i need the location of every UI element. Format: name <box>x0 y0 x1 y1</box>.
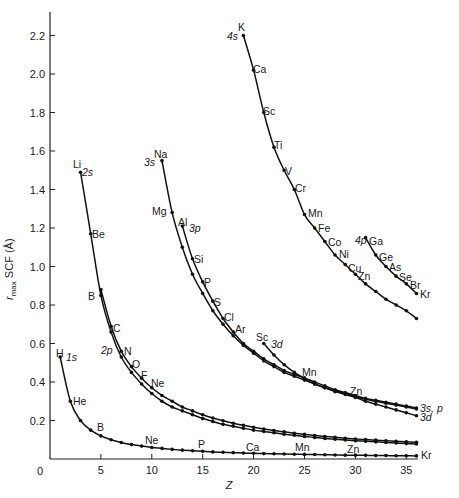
series-4s <box>242 34 419 321</box>
data-point <box>119 355 123 359</box>
label-Sc-3d: Sc <box>256 331 268 343</box>
label-3p: 3p <box>189 222 201 234</box>
data-point <box>394 274 398 278</box>
data-point <box>181 448 185 452</box>
label-Na: Na <box>154 148 168 160</box>
curve-4s <box>243 36 416 319</box>
data-point <box>191 272 195 276</box>
data-point <box>282 363 286 367</box>
data-point <box>333 435 337 439</box>
data-point <box>211 420 215 424</box>
data-point <box>191 449 195 453</box>
data-point <box>364 438 368 442</box>
x-tick-label: 35 <box>400 464 412 476</box>
curve-2s <box>81 172 417 444</box>
x-tick-label: 30 <box>349 464 361 476</box>
data-point <box>170 211 174 215</box>
data-point <box>313 226 317 230</box>
label-B-1s: B <box>97 421 104 433</box>
data-point <box>303 453 307 457</box>
label-He: He <box>73 395 87 407</box>
label-1s: 1s <box>66 351 78 363</box>
data-point <box>394 439 398 443</box>
data-point <box>405 309 409 313</box>
x-tick-label: 5 <box>98 464 104 476</box>
y-tick-label: 0.4 <box>30 376 45 388</box>
label-3s: 3s <box>144 156 156 168</box>
data-point <box>384 265 388 269</box>
data-point <box>323 240 327 244</box>
x-tick-label: 25 <box>298 464 310 476</box>
y-tick-label: 1.0 <box>30 261 45 273</box>
data-point <box>384 400 388 404</box>
data-point <box>242 424 246 428</box>
label-P-1s: P <box>198 438 205 450</box>
data-point <box>181 405 185 409</box>
y-title-rest: SCF (Å) <box>3 238 15 281</box>
data-point <box>303 433 307 437</box>
data-point <box>374 454 378 458</box>
data-point <box>343 393 347 397</box>
axes: 0.20.40.60.81.01.21.41.61.82.02.2 510152… <box>3 12 418 491</box>
data-point <box>170 405 174 409</box>
label-Cl: Cl <box>224 311 234 323</box>
label-Ga: Ga <box>369 235 383 247</box>
label-Kr-1s: Kr <box>421 449 432 461</box>
label-K: K <box>238 21 245 33</box>
label-Al: Al <box>178 216 187 228</box>
y-ticks: 0.20.40.60.81.01.21.41.61.82.02.2 <box>30 30 55 427</box>
label-Cr: Cr <box>295 182 307 194</box>
y-tick-label: 0.8 <box>30 299 45 311</box>
data-point <box>323 386 327 390</box>
data-point <box>415 292 419 296</box>
series-2s <box>79 170 419 445</box>
label-F: F <box>141 369 147 381</box>
data-point <box>99 288 103 292</box>
label-4s: 4s <box>227 30 239 42</box>
label-Mn-3d: Mn <box>302 366 317 378</box>
data-point <box>201 292 205 296</box>
y-tick-label: 1.2 <box>30 222 45 234</box>
data-point <box>150 446 154 450</box>
data-point <box>374 290 378 294</box>
y-tick-label: 2.0 <box>30 68 45 80</box>
label-Si: Si <box>194 253 203 265</box>
data-point <box>191 409 195 413</box>
data-point <box>150 392 154 396</box>
label-Ne-1s: Ne <box>145 434 159 446</box>
label-Zn: Zn <box>358 270 370 282</box>
label-Ni: Ni <box>339 248 349 260</box>
data-point <box>405 454 409 458</box>
data-point <box>272 353 276 357</box>
label-P-3p: P <box>204 276 211 288</box>
label-Mg: Mg <box>152 205 167 217</box>
curve-2p <box>101 290 417 443</box>
data-point <box>69 399 73 403</box>
label-S: S <box>214 296 221 308</box>
x-tick-label: 20 <box>247 464 259 476</box>
y-title-sub: max <box>9 281 18 296</box>
data-point <box>394 408 398 412</box>
data-point <box>303 213 307 217</box>
y-tick-label: 1.8 <box>30 107 45 119</box>
data-point <box>394 454 398 458</box>
label-Mn: Mn <box>308 207 323 219</box>
y-axis-title: rmax SCF (Å) <box>3 238 18 300</box>
label-4p: 4p <box>355 234 367 246</box>
data-point <box>384 405 388 409</box>
data-point <box>394 303 398 307</box>
data-point <box>282 430 286 434</box>
label-N: N <box>124 345 132 357</box>
label-Zn-3d: Zn <box>350 385 362 397</box>
data-point <box>89 428 93 432</box>
data-point <box>415 440 419 444</box>
data-point <box>323 453 327 457</box>
data-point <box>313 382 317 386</box>
y-tick-label: 1.4 <box>30 184 45 196</box>
x-tick-label: 15 <box>197 464 209 476</box>
data-point <box>374 398 378 402</box>
label-H: H <box>56 347 64 359</box>
label-Sc: Sc <box>263 105 275 117</box>
data-point <box>333 390 337 394</box>
data-point <box>231 424 235 428</box>
